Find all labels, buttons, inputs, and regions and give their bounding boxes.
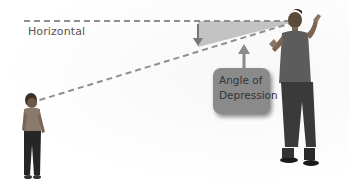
horizontal-label: Horizontal: [28, 25, 85, 38]
diagram-canvas: Horizontal Angle of Depression: [0, 0, 349, 187]
callout-line-1: Angle of: [219, 73, 270, 88]
angle-of-depression-callout: Angle of Depression: [213, 68, 270, 114]
man-figure: [269, 9, 321, 166]
callout-arrow-icon: [238, 44, 250, 68]
child-figure: [22, 93, 45, 179]
callout-line-2: Depression: [219, 88, 270, 103]
